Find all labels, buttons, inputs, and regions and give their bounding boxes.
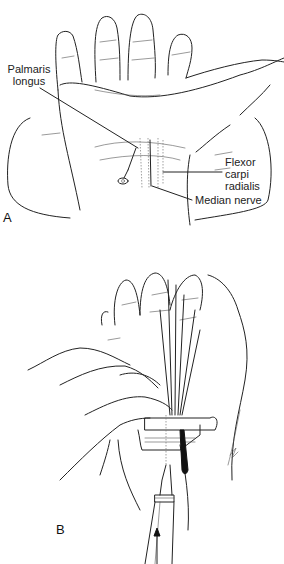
- panel-b: B: [0, 270, 284, 564]
- label-flexor-line1: Flexor: [225, 156, 260, 168]
- label-median-nerve: Median nerve: [195, 194, 262, 206]
- palm-illustration: [0, 0, 284, 280]
- injection-illustration: [0, 270, 284, 564]
- label-flexor-line2: carpi: [225, 168, 260, 180]
- label-flexor-carpi-radialis: Flexor carpi radialis: [225, 156, 260, 192]
- label-flexor-line3: radialis: [225, 180, 260, 192]
- label-palmaris-line2: longus: [2, 75, 56, 87]
- panel-a: Palmaris longus Flexor carpi radialis Me…: [0, 0, 284, 280]
- panel-label-a: A: [3, 210, 12, 225]
- label-palmaris-line1: Palmaris: [2, 63, 56, 75]
- label-palmaris-longus: Palmaris longus: [2, 63, 56, 87]
- panel-label-b: B: [56, 522, 65, 537]
